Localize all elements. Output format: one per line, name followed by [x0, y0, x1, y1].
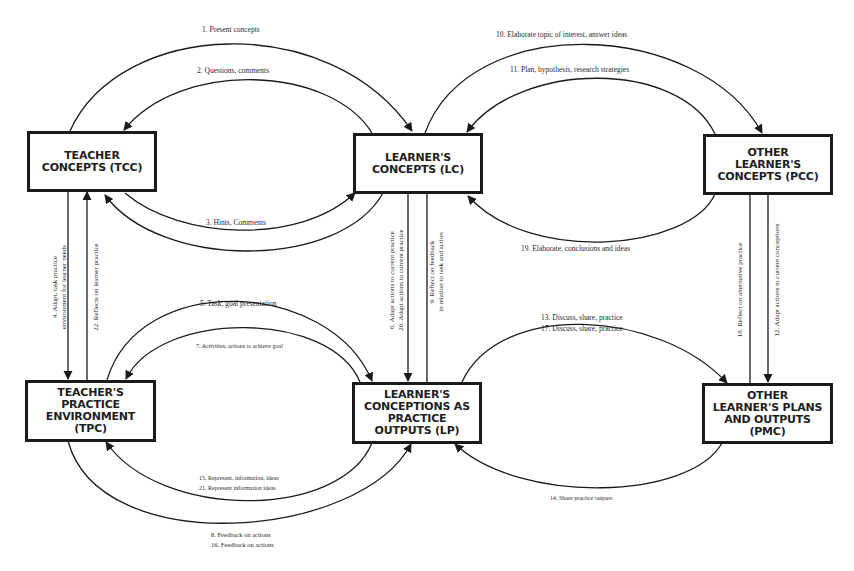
- edge-8-label: 8. Feedback on actions: [211, 530, 271, 540]
- edge-19-arrow: [468, 194, 715, 242]
- edge-4-label-line2: environment for learner needs: [60, 245, 69, 329]
- edge-19-label: 19. Elaborate, conclusions and ideas: [521, 244, 630, 254]
- edge-7-label: 7. Activities, actions to achieve goal: [196, 341, 283, 351]
- edge-14-arrow: [455, 443, 722, 488]
- edge-1-label: 1. Present concepts: [202, 25, 260, 35]
- node-learner-conceptions-outputs: LEARNER'S CONCEPTIONS AS PRACTICE OUTPUT…: [352, 382, 482, 444]
- node-teacher-practice-environment: TEACHER'S PRACTICE ENVIRONMENT (TPC): [25, 380, 156, 442]
- edge-11-arrow: [467, 78, 715, 134]
- edge-18-label-line1: 18. Reflect on alternative practice: [736, 243, 745, 338]
- edge-15-label: 15. Represent, information, ideas: [199, 473, 279, 483]
- node-other-learner-concepts: OTHER LEARNER'S CONCEPTS (PCC): [703, 134, 833, 195]
- node-teacher-concepts: TEACHER CONCEPTS (TCC): [27, 131, 157, 192]
- edge-5-label: 5. Task, goal presentation: [200, 299, 277, 309]
- edge-9-label-line1: 9. Reflect on feedback: [428, 232, 437, 312]
- edge-3-label: 3. Hints, Comments: [206, 218, 266, 228]
- edge-6-label: 6. Adapt actions to current practice 20.…: [388, 229, 406, 330]
- edge-21-label: 21. Represent information ideas: [199, 483, 276, 493]
- edge-10-arrow: [425, 44, 762, 133]
- edge-9-label-line2: in relation to task and action: [437, 232, 446, 312]
- edge-11-label: 11. Plan, hypothesis, research strategie…: [510, 65, 629, 75]
- edge-10-label: 10. Elaborate topic of interest, answer …: [496, 30, 627, 40]
- edge-12-label-line1: 12. Adapt actions to current conceptions: [773, 224, 782, 337]
- edge-20-label-line2: 20. Adapt actions to current practice: [397, 229, 406, 330]
- edge-16-label: 16. Feedback on actions: [211, 540, 274, 550]
- edge-6-label-line1: 6. Adapt actions to current practice: [388, 229, 397, 330]
- node-other-learner-plans-outputs: OTHER LEARNER'S PLANS AND OUTPUTS (PMC): [702, 383, 833, 444]
- edge-9-label: 9. Reflect on feedback in relation to ta…: [428, 232, 446, 312]
- edge-7-arrow: [126, 328, 360, 382]
- node-learner-concepts: LEARNER'S CONCEPTS (LC): [353, 133, 483, 194]
- edge-13-label: 13. Discuss, share, practice: [541, 313, 623, 323]
- connector-layer: [0, 0, 854, 571]
- edge-12-label: 12. Adapt actions to current conceptions: [773, 224, 782, 337]
- edge-14-label: 14. Share practice outputs: [550, 493, 612, 503]
- edge-22-label-line1: 22. Reflects on learner practice: [92, 243, 101, 330]
- learning-flow-diagram: TEACHER CONCEPTS (TCC) LEARNER'S CONCEPT…: [0, 0, 854, 571]
- edge-17-label: 17. Discuss, share, practice: [541, 324, 623, 334]
- edge-4-label: 4. Adapt, task practice environment for …: [51, 245, 69, 329]
- edge-2-arrow: [124, 80, 372, 133]
- edge-18-label: 18. Reflect on alternative practice: [736, 243, 745, 338]
- edge-4-label-line1: 4. Adapt, task practice: [51, 245, 60, 329]
- edge-2-label: 2. Questions, comments: [197, 66, 269, 76]
- edge-22-label: 22. Reflects on learner practice: [92, 243, 101, 330]
